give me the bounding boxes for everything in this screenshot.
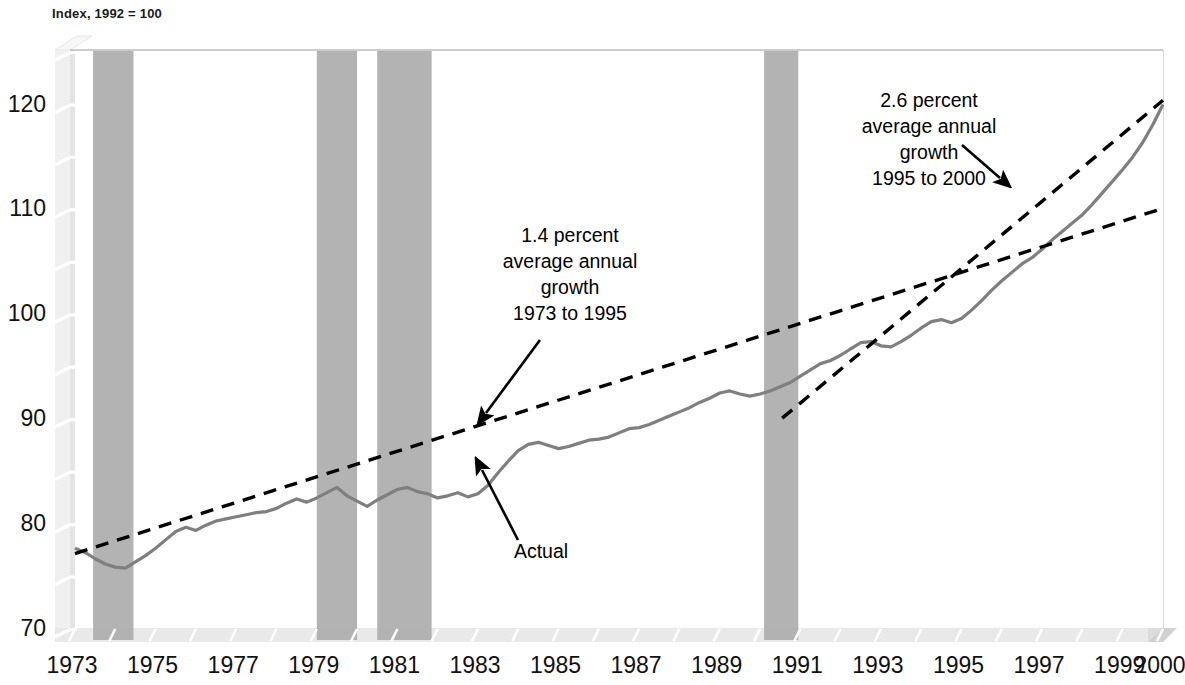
x-axis-tick-label: 1979 [288, 652, 339, 678]
x-axis-tick-label: 1991 [772, 652, 823, 678]
y-axis-tick-label: 120 [8, 91, 46, 117]
recession-band-floor [764, 628, 798, 640]
annotation-text-line: growth [900, 141, 959, 163]
chart-canvas: 708090100110120 197319751977197919811983… [0, 0, 1185, 685]
x-axis-tick-label: 1985 [530, 652, 581, 678]
recession-band-floor [377, 628, 431, 640]
x-axis-tick-label: 2000 [1134, 652, 1185, 678]
recession-band [764, 51, 798, 628]
y-axis-tick-label: 80 [20, 510, 46, 536]
recession-band [317, 51, 357, 628]
x-axis-tick-label: 1993 [852, 652, 903, 678]
axis-wall-inner-shade [70, 50, 75, 628]
annotation-text-line: 1.4 percent [521, 224, 619, 246]
axis-wall-top-bevel [55, 36, 92, 50]
x-axis-tick-label: 1997 [1014, 652, 1065, 678]
annotation-text-line: growth [541, 276, 600, 298]
y-axis-tick-label: 100 [8, 300, 46, 326]
y-axis-tick-label: 90 [20, 405, 46, 431]
recession-band [93, 51, 133, 628]
y-axis-tick-label: 110 [9, 195, 46, 221]
y-axis-labels-group: 708090100110120 [8, 91, 46, 642]
annotation-text-line: 1973 to 1995 [513, 302, 627, 324]
annotation-text-line: Actual [514, 540, 568, 562]
line-chart-svg: 708090100110120 197319751977197919811983… [0, 0, 1185, 685]
axis-frame-3d [55, 36, 1177, 642]
x-axis-tick-label: 1973 [46, 652, 97, 678]
x-axis-tick-label: 1981 [369, 652, 420, 678]
x-axis-tick-label: 1983 [449, 652, 500, 678]
annotation-text-line: average annual [862, 115, 996, 137]
x-axis-tick-label: 1977 [208, 652, 259, 678]
recession-band [377, 51, 431, 628]
annotation-text-line: 2.6 percent [880, 89, 978, 111]
y-axis-tick-label: 70 [20, 615, 46, 641]
plot-area-background [75, 51, 1163, 628]
x-axis-labels-group: 1973197519771979198119831985198719891991… [46, 652, 1185, 678]
x-axis-tick-label: 1989 [691, 652, 742, 678]
annotation-text-line: average annual [503, 250, 637, 272]
x-axis-tick-label: 1987 [611, 652, 662, 678]
recession-band-floor [317, 628, 357, 640]
axis-wall-face [55, 50, 70, 628]
annotation-text-line: 1995 to 2000 [872, 167, 986, 189]
x-axis-tick-label: 1995 [933, 652, 984, 678]
x-axis-tick-label: 1975 [127, 652, 178, 678]
